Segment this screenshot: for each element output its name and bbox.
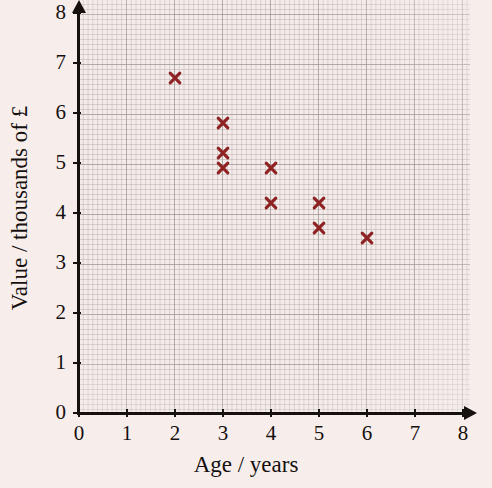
data-point-marker (215, 145, 231, 161)
x-tick-2 (174, 409, 176, 417)
y-tick-label-5: 5 (42, 152, 66, 173)
y-tick-0 (73, 412, 81, 414)
x-tick-label-4: 4 (259, 423, 283, 444)
y-axis-title: Value / thousands of £ (7, 0, 33, 418)
y-tick-5 (73, 162, 81, 164)
y-tick-3 (73, 262, 81, 264)
x-tick-4 (270, 409, 272, 417)
x-tick-1 (126, 409, 128, 417)
x-tick-6 (366, 409, 368, 417)
y-tick-label-1: 1 (42, 352, 66, 373)
y-tick-6 (73, 112, 81, 114)
x-tick-7 (414, 409, 416, 417)
x-axis-line (78, 412, 466, 415)
y-tick-1 (73, 362, 81, 364)
x-tick-label-2: 2 (163, 423, 187, 444)
x-tick-label-8: 8 (451, 423, 475, 444)
x-axis-title: Age / years (0, 452, 492, 478)
x-tick-label-7: 7 (403, 423, 427, 444)
x-tick-label-1: 1 (115, 423, 139, 444)
x-tick-8 (462, 409, 464, 417)
x-tick-label-6: 6 (355, 423, 379, 444)
x-tick-label-3: 3 (211, 423, 235, 444)
y-tick-label-6: 6 (42, 102, 66, 123)
x-axis-arrow-icon (464, 406, 477, 420)
data-point-marker (215, 115, 231, 131)
data-point-marker (167, 70, 183, 86)
data-point-marker (311, 195, 327, 211)
y-tick-label-8: 8 (42, 2, 66, 23)
y-tick-label-0: 0 (42, 402, 66, 423)
y-tick-8 (73, 12, 81, 14)
x-tick-3 (222, 409, 224, 417)
data-point-marker (263, 160, 279, 176)
data-point-marker (311, 220, 327, 236)
y-tick-7 (73, 62, 81, 64)
data-point-marker (263, 195, 279, 211)
y-tick-2 (73, 312, 81, 314)
scatter-chart: 012345678 012345678 Age / years Value / … (0, 0, 492, 488)
x-tick-5 (318, 409, 320, 417)
y-tick-label-7: 7 (42, 52, 66, 73)
y-tick-label-3: 3 (42, 252, 66, 273)
data-point-marker (359, 230, 375, 246)
x-tick-label-0: 0 (67, 423, 91, 444)
y-tick-4 (73, 212, 81, 214)
y-tick-label-4: 4 (42, 202, 66, 223)
data-point-marker (215, 160, 231, 176)
y-tick-label-2: 2 (42, 302, 66, 323)
x-tick-label-5: 5 (307, 423, 331, 444)
